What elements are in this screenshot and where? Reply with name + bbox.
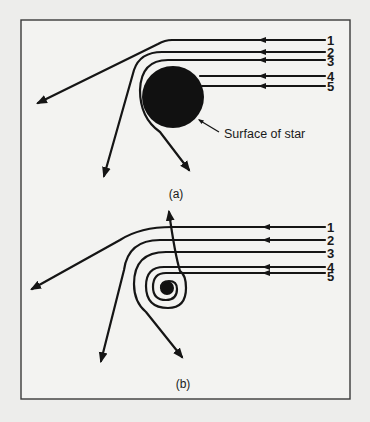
panel-caption: (a): [169, 187, 184, 201]
ray-label: 3: [327, 246, 334, 261]
ray-label: 5: [327, 79, 334, 94]
star-surface-label: Surface of star: [224, 127, 305, 141]
ray-label: 3: [327, 54, 334, 69]
ray-label: 5: [327, 269, 334, 284]
panel-caption: (b): [176, 377, 191, 391]
star-surface: [142, 66, 204, 128]
light-deflection-figure: 1 2 3 4 5 Surface of star (a): [0, 0, 370, 422]
